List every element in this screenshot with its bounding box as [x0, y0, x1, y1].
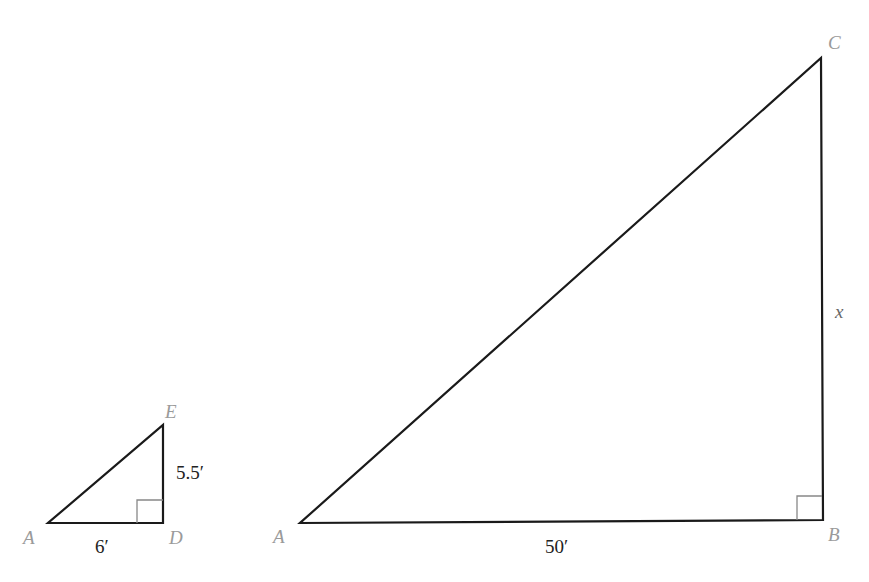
large-right-angle-marker: [797, 496, 822, 520]
side-label-AB: 50′: [545, 537, 568, 556]
vertex-label-B: B: [828, 525, 840, 544]
diagram-canvas: [0, 0, 869, 582]
small-triangle-ADE: [48, 425, 163, 523]
side-label-AD: 6′: [95, 537, 109, 556]
vertex-label-D: D: [169, 528, 183, 547]
large-triangle-ABC: [300, 58, 823, 523]
vertex-label-E: E: [165, 402, 177, 421]
vertex-label-A-large: A: [273, 527, 285, 546]
side-label-BC: x: [835, 302, 843, 321]
side-label-DE: 5.5′: [176, 463, 204, 482]
small-right-angle-marker: [137, 500, 163, 523]
vertex-label-A-small: A: [23, 528, 35, 547]
vertex-label-C: C: [828, 33, 841, 52]
